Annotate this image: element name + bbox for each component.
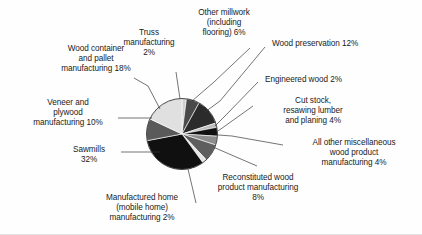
pie-chart-figure: Wood container and pallet manufacturing … (0, 0, 422, 235)
leader-line-wood-container (134, 78, 160, 109)
leader-line-engineered-wood (215, 82, 258, 126)
slice-label-reconstituted: Reconstituted wood product manufacturing… (189, 173, 327, 204)
slice-label-engineered-wood: Engineered wood 2% (265, 75, 415, 85)
leader-line-reconstituted (213, 147, 257, 166)
slice-label-sawmills: Sawmills 32% (58, 145, 120, 165)
slice-label-wood-preservation: Wood preservation 12% (272, 39, 420, 49)
leader-line-cut-stock (218, 106, 253, 131)
slice-label-truss: Truss manufacturing 2% (112, 28, 186, 59)
slice-label-cut-stock: Cut stock, resawing lumber and planing 4… (258, 96, 368, 127)
slice-label-other-millwork: Other millwork (including flooring) 6% (182, 8, 266, 39)
leader-line-other-millwork (192, 48, 250, 101)
leader-line-wood-preservation (205, 47, 265, 112)
pie-slice-group (147, 99, 218, 170)
slice-label-veneer-plywood: Veneer and plywood manufacturing 10% (18, 98, 118, 129)
leader-line-truss (176, 72, 180, 99)
leader-line-all-other-misc (218, 135, 283, 145)
slice-label-all-other-misc: All other miscellaneous wood product man… (288, 138, 420, 169)
slice-label-manufactured-home: Manufactured home (mobile home) manufact… (84, 193, 200, 224)
